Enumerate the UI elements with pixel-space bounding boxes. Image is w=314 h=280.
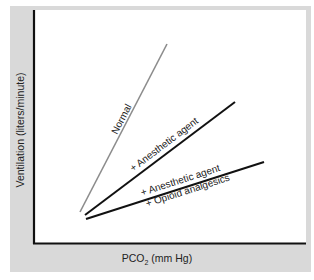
x-axis-label: PCO2 (mm Hg) (0, 252, 314, 266)
label-normal: Normal (109, 102, 134, 136)
chart-svg: Normal + Anesthetic agent + Anesthetic a… (0, 0, 314, 280)
y-axis-label: Ventilation (liters/minute) (14, 73, 26, 188)
label-anesthetic: + Anesthetic agent (128, 115, 201, 174)
